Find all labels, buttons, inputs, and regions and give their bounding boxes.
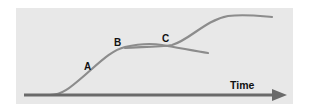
first-s-curve (50, 44, 208, 95)
label-b: B (114, 37, 121, 48)
label-a: A (84, 61, 91, 72)
s-curve-diagram: A B C Time (0, 0, 310, 108)
label-c: C (162, 33, 169, 44)
arrow-head-icon (272, 89, 287, 101)
time-axis-label: Time (230, 79, 254, 91)
